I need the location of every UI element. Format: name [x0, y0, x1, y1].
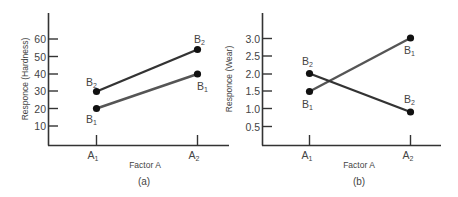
chart-a-y-ticks: [48, 39, 58, 126]
series-b1-line: [310, 38, 411, 92]
y-tick-label: 2.0: [245, 68, 260, 80]
series-b1-line: [97, 74, 198, 109]
point-label-b2-a1: B2: [302, 55, 313, 68]
y-tick-label: 40: [34, 68, 46, 80]
series-b2-line: [97, 50, 198, 92]
chart-b-y-tick-labels: 3.0 2.5 2.0 1.5 1.0 0.5: [245, 33, 260, 133]
y-tick-label: 2.5: [245, 50, 260, 62]
interaction-plots: 60 50 40 30 20 10 A1 A2 Factor A Responc…: [0, 0, 458, 197]
chart-a-y-tick-labels: 60 50 40 30 20 10: [34, 33, 46, 132]
data-point-b2-a2: [194, 46, 201, 53]
data-point-b1-a2: [194, 70, 201, 77]
y-tick-label: 1.0: [245, 103, 260, 115]
data-point-b2-a2: [407, 108, 414, 115]
chart-a-x-title: Factor A: [129, 160, 161, 170]
x-tick-label-a1: A1: [302, 149, 313, 162]
chart-b-caption: (b): [353, 176, 365, 187]
point-label-b1-a1: B1: [86, 113, 97, 126]
data-point-b1-a1: [306, 88, 313, 95]
chart-a: 60 50 40 30 20 10 A1 A2 Factor A Responc…: [20, 13, 229, 187]
y-tick-label: 10: [34, 120, 46, 132]
y-tick-label: 0.5: [245, 121, 260, 133]
point-label-b1-a1: B1: [302, 98, 313, 111]
chart-b-y-ticks: [262, 39, 272, 127]
point-label-b1-a2: B1: [404, 44, 415, 57]
point-label-b2-a2: B2: [194, 33, 205, 46]
data-point-b1-a2: [407, 34, 414, 41]
x-tick-label-a1: A1: [88, 149, 99, 162]
chart-b-y-title: Responce (Wear): [224, 46, 234, 113]
chart-b-x-title: Factor A: [343, 160, 375, 170]
x-tick-label-a2: A2: [189, 149, 200, 162]
data-point-b2-a1: [306, 70, 313, 77]
chart-b: 3.0 2.5 2.0 1.5 1.0 0.5 A1 A2 Factor A R…: [224, 13, 441, 187]
y-tick-label: 1.5: [245, 85, 260, 97]
y-tick-label: 60: [34, 33, 46, 45]
point-label-b2-a1: B2: [86, 76, 97, 89]
y-tick-label: 20: [34, 103, 46, 115]
data-point-b1-a1: [93, 105, 100, 112]
series-b2-line: [310, 74, 411, 113]
point-label-b1-a2: B1: [197, 80, 208, 93]
y-tick-label: 30: [34, 85, 46, 97]
chart-a-caption: (a): [138, 176, 150, 187]
y-tick-label: 3.0: [245, 33, 260, 45]
point-label-b2-a2: B2: [404, 93, 415, 106]
y-tick-label: 50: [34, 51, 46, 63]
chart-a-y-title: Responce (Hardness): [20, 37, 30, 120]
x-tick-label-a2: A2: [403, 149, 414, 162]
